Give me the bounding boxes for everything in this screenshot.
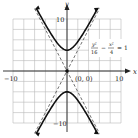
eq-rhs: = 1 [117, 44, 128, 51]
center-point [65, 69, 69, 73]
x-tick-10: 10 [115, 75, 123, 83]
eq-num-1: y² [91, 41, 97, 48]
y-tick-neg10: −10 [53, 120, 67, 128]
x-axis-arrow-icon [125, 69, 131, 74]
x-tick-neg10: −10 [4, 75, 18, 83]
eq-num-2: x² [109, 41, 114, 47]
eq-minus: − [101, 44, 106, 51]
equation-label: y² 16 − x² 4 = 1 [89, 39, 137, 57]
eq-den-1: 16 [91, 49, 97, 55]
x-axis-label: x [133, 68, 137, 76]
arrowhead-icon [35, 6, 40, 10]
arrowhead-icon [35, 133, 40, 137]
origin-label: (0, 0) [75, 75, 93, 83]
hyperbola-plot: x y −10 10 10 −10 (0, 0) y² 16 − x² 4 = … [0, 0, 138, 138]
eq-den-2: 4 [110, 49, 113, 55]
y-tick-10: 10 [56, 16, 64, 24]
y-axis-label: y [64, 0, 69, 8]
